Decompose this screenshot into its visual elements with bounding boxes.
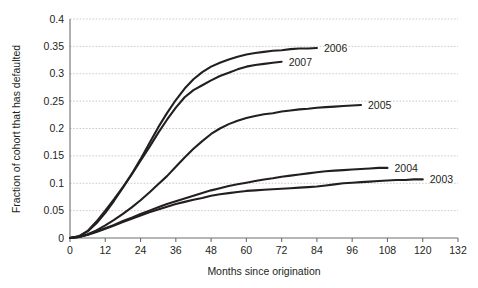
y-tick-label-0.4: 0.4	[49, 13, 64, 25]
x-tick-label-108: 108	[379, 244, 397, 256]
x-tick-label-96: 96	[346, 244, 358, 256]
y-tick-label-0.05: 0.05	[44, 204, 65, 216]
y-tick-label-0.2: 0.2	[49, 122, 64, 134]
x-tick-label-84: 84	[311, 244, 323, 256]
x-axis-title: Months since origination	[207, 265, 320, 277]
series-paths-group	[70, 48, 423, 238]
series-label-2007: 2007	[289, 56, 313, 68]
x-tick-label-24: 24	[135, 244, 147, 256]
x-tick-label-72: 72	[276, 244, 288, 256]
x-tick-label-12: 12	[99, 244, 111, 256]
y-tick-label-0: 0	[58, 232, 64, 244]
series-line-2004	[70, 168, 387, 238]
y-tick-label-0.35: 0.35	[44, 40, 65, 52]
chart-container: 00.050.10.150.20.250.30.350.4 0122436486…	[0, 0, 478, 288]
x-tick-label-132: 132	[449, 244, 467, 256]
tick-marks-group	[70, 238, 458, 242]
line-chart: 00.050.10.150.20.250.30.350.4 0122436486…	[0, 0, 478, 288]
y-tick-label-0.15: 0.15	[44, 149, 65, 161]
series-label-2003: 2003	[430, 173, 454, 185]
series-labels-group: 20032004200520062007	[289, 42, 454, 185]
series-label-2005: 2005	[368, 99, 392, 111]
y-tick-label-0.25: 0.25	[44, 95, 65, 107]
x-tick-label-48: 48	[205, 244, 217, 256]
x-tick-labels-group: 01224364860728496108120132	[67, 244, 467, 256]
y-tick-label-0.3: 0.3	[49, 67, 64, 79]
y-tick-label-0.1: 0.1	[49, 177, 64, 189]
series-line-2007	[70, 62, 282, 238]
series-label-2004: 2004	[394, 162, 418, 174]
series-label-2006: 2006	[324, 42, 348, 54]
y-tick-labels-group: 00.050.10.150.20.250.30.350.4	[44, 13, 65, 244]
x-tick-label-36: 36	[170, 244, 182, 256]
x-tick-label-0: 0	[67, 244, 73, 256]
x-tick-label-60: 60	[241, 244, 253, 256]
y-axis-title: Fraction of cohort that has defaulted	[10, 45, 22, 213]
x-tick-label-120: 120	[414, 244, 432, 256]
